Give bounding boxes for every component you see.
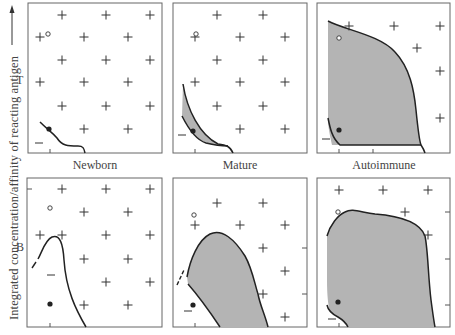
panel-t-newborn [28, 3, 162, 153]
filled-circle-icon [47, 301, 52, 306]
panel-b-newborn [27, 178, 162, 327]
immune-tolerance-diagram: Integrated concentration/affinity of rea… [0, 0, 455, 335]
filled-circle-icon [335, 299, 340, 304]
filled-circle-icon [336, 127, 341, 132]
boundary-curve [38, 236, 86, 327]
shaded-region [328, 21, 421, 145]
open-circle-icon [194, 32, 198, 36]
open-circle-icon [46, 32, 50, 36]
open-circle-icon [336, 210, 340, 214]
dashed-boundary [177, 270, 184, 285]
open-circle-icon [48, 206, 52, 210]
panel-t-autoimmune [317, 3, 450, 153]
panel-b-mature [173, 178, 307, 327]
panels [0, 0, 455, 335]
panel-b-autoimmune [317, 178, 450, 327]
boundary-curve [40, 122, 85, 153]
open-circle-icon [337, 36, 341, 40]
panel-t-mature [173, 3, 307, 153]
filled-circle-icon [190, 128, 195, 133]
shaded-region [182, 84, 228, 146]
shaded-region [187, 232, 268, 327]
open-circle-icon [192, 213, 196, 217]
filled-circle-icon [190, 302, 195, 307]
plus-signs [36, 11, 155, 134]
plus-signs [191, 11, 290, 134]
plus-signs [36, 185, 155, 310]
dashed-boundary [32, 262, 36, 268]
